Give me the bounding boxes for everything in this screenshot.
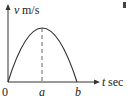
x-axis-unit-label: sec <box>108 75 123 89</box>
y-axis-unit-label: m/s <box>22 3 40 17</box>
y-axis-arrow-icon <box>6 4 11 10</box>
end-label: b <box>75 85 81 98</box>
x-axis-arrow-icon <box>94 80 100 85</box>
peak-label: a <box>39 85 45 98</box>
y-axis-var-label: v <box>14 3 20 17</box>
origin-label: 0 <box>2 85 8 98</box>
velocity-time-diagram: v m/s t sec 0 a b <box>0 0 127 98</box>
x-axis-var-label: t <box>102 75 106 89</box>
corner-mark <box>123 2 126 8</box>
